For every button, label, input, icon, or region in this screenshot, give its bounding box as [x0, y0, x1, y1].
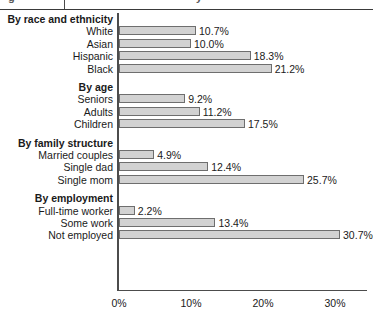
title-divider	[64, 0, 65, 9]
bar-row: Married couples4.9%	[0, 149, 373, 161]
bar-row: Some work13.4%	[0, 217, 373, 229]
group-header-label: By race and ethnicity	[0, 13, 113, 25]
bar-chart: By race and ethnicityWhite10.7%Asian10.0…	[0, 11, 373, 317]
bar	[119, 119, 245, 128]
group-header-row: By family structure	[0, 137, 373, 149]
bar	[119, 218, 215, 227]
category-label: Married couples	[0, 149, 113, 161]
x-tick-label: 30%	[315, 297, 355, 309]
title-rule	[0, 9, 373, 10]
category-label: Children	[0, 118, 113, 130]
bar-value-label: 17.5%	[248, 118, 278, 130]
category-label: Adults	[0, 106, 113, 118]
group-header-label: By age	[0, 81, 113, 93]
bar-value-label: 18.3%	[254, 50, 284, 62]
bar-row: Asian10.0%	[0, 38, 373, 50]
bar	[119, 64, 272, 73]
bar-value-label: 9.2%	[188, 93, 212, 105]
bar-row: Single mom25.7%	[0, 174, 373, 186]
cropped-title-strip: g y	[0, 0, 373, 11]
category-label: Hispanic	[0, 50, 113, 62]
group-header-row: By age	[0, 81, 373, 93]
value-axis	[117, 290, 367, 291]
group-header-row: By employment	[0, 192, 373, 204]
category-label: Not employed	[0, 229, 113, 241]
bar-row: White10.7%	[0, 25, 373, 37]
bar	[119, 230, 340, 239]
bar-value-label: 30.7%	[343, 229, 373, 241]
group-header-row: By race and ethnicity	[0, 13, 373, 25]
bar-value-label: 25.7%	[307, 174, 337, 186]
group-header-label: By family structure	[0, 137, 113, 149]
category-label: Some work	[0, 217, 113, 229]
bar-row: Single dad12.4%	[0, 161, 373, 173]
bar	[119, 39, 191, 48]
bar-row: Adults11.2%	[0, 106, 373, 118]
bar-value-label: 11.2%	[203, 106, 232, 118]
bar-row: Full-time worker2.2%	[0, 205, 373, 217]
bar	[119, 162, 208, 171]
bar-row: Black21.2%	[0, 63, 373, 75]
bar	[119, 107, 200, 116]
category-label: White	[0, 25, 113, 37]
bar	[119, 206, 135, 215]
bar-value-label: 4.9%	[157, 149, 181, 161]
bar-row: Seniors9.2%	[0, 93, 373, 105]
category-label: Asian	[0, 38, 113, 50]
bar	[119, 26, 196, 35]
bar-row: Children17.5%	[0, 118, 373, 130]
bar-value-label: 13.4%	[218, 217, 248, 229]
bar-value-label: 12.4%	[211, 161, 241, 173]
x-tick-label: 0%	[99, 297, 139, 309]
group-header-label: By employment	[0, 192, 113, 204]
category-label: Seniors	[0, 93, 113, 105]
x-tick-label: 20%	[243, 297, 283, 309]
category-label: Full-time worker	[0, 205, 113, 217]
category-label: Black	[0, 63, 113, 75]
bar-value-label: 2.2%	[138, 205, 162, 217]
category-label: Single mom	[0, 174, 113, 186]
bar	[119, 150, 154, 159]
bar-value-label: 10.0%	[194, 38, 224, 50]
cropped-title-right-text: y	[196, 0, 202, 3]
bar-row: Hispanic18.3%	[0, 50, 373, 62]
x-tick-label: 10%	[171, 297, 211, 309]
bar	[119, 94, 185, 103]
category-label: Single dad	[0, 161, 113, 173]
bar-value-label: 21.2%	[275, 63, 305, 75]
bar	[119, 175, 304, 184]
bar-value-label: 10.7%	[199, 25, 229, 37]
cropped-title-left-text: g	[8, 0, 15, 3]
bar-row: Not employed30.7%	[0, 229, 373, 241]
bar	[119, 51, 251, 60]
